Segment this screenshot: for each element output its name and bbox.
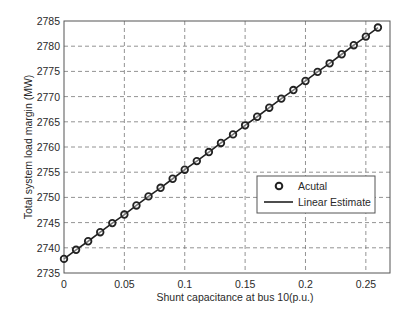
data-point-marker — [290, 87, 297, 94]
y-tick-label: 2740 — [37, 242, 61, 254]
data-point-marker — [314, 69, 321, 76]
x-axis-ticks: 00.050.10.150.20.25 — [61, 278, 376, 290]
data-point-marker — [157, 185, 164, 192]
legend-label-actual: Acutal — [298, 180, 327, 192]
data-point-marker — [97, 229, 104, 236]
data-point-marker — [338, 51, 345, 58]
data-point-marker — [350, 42, 357, 49]
data-point-marker — [109, 220, 116, 227]
data-point-marker — [242, 122, 249, 129]
y-tick-label: 2760 — [37, 141, 61, 153]
data-point-marker — [363, 33, 370, 40]
y-tick-label: 2755 — [37, 166, 61, 178]
y-tick-label: 2770 — [37, 91, 61, 103]
y-axis-label: Total system load margin (MW) — [22, 75, 34, 220]
x-tick-label: 0.05 — [114, 278, 135, 290]
x-tick-label: 0.2 — [298, 278, 313, 290]
y-tick-label: 2785 — [37, 15, 61, 27]
data-point-marker — [145, 193, 152, 200]
data-point-marker — [254, 113, 261, 120]
y-tick-label: 2765 — [37, 116, 61, 128]
x-tick-label: 0.1 — [177, 278, 192, 290]
data-point-marker — [85, 238, 92, 245]
data-point-marker — [121, 211, 128, 218]
x-axis-label: Shunt capacitance at bus 10(p.u.) — [156, 291, 313, 303]
y-tick-label: 2735 — [37, 267, 61, 279]
x-tick-label: 0 — [61, 278, 67, 290]
legend-label-linear-estimate: Linear Estimate — [298, 196, 371, 208]
data-point-marker — [169, 175, 176, 182]
y-tick-label: 2780 — [37, 40, 61, 52]
data-point-marker — [278, 95, 285, 102]
data-point-marker — [302, 78, 309, 85]
y-axis-ticks: 2735274027452750275527602765277027752780… — [37, 15, 61, 279]
data-point-marker — [181, 166, 188, 173]
x-tick-label: 0.15 — [235, 278, 256, 290]
data-point-marker — [206, 149, 213, 156]
chart: 2735274027452750275527602765277027752780… — [0, 0, 412, 321]
y-tick-label: 2750 — [37, 191, 61, 203]
data-point-marker — [133, 202, 140, 209]
data-point-marker — [230, 131, 237, 138]
x-tick-label: 0.25 — [356, 278, 377, 290]
data-point-marker — [326, 60, 333, 67]
y-tick-label: 2775 — [37, 65, 61, 77]
data-point-marker — [218, 140, 225, 147]
data-point-marker — [194, 158, 201, 165]
data-point-marker — [266, 104, 273, 111]
legend: Acutal Linear Estimate — [257, 176, 375, 213]
grid-lines — [64, 21, 390, 273]
data-point-marker — [73, 247, 80, 254]
data-point-marker — [61, 256, 68, 263]
data-point-marker — [375, 24, 382, 31]
y-tick-label: 2745 — [37, 217, 61, 229]
